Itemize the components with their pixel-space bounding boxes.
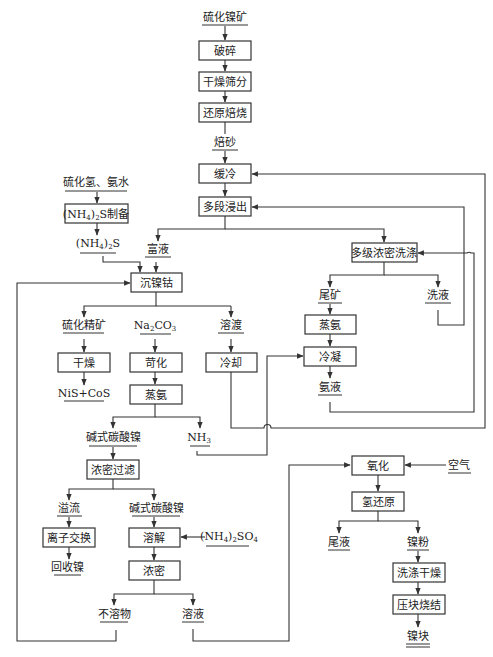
label-ammonium-sulfide: (NH4)2S [76, 237, 120, 251]
svg-text:蒸氨: 蒸氨 [319, 319, 341, 332]
label-h2s-ammonia: 硫化氢、氨水 [63, 175, 129, 189]
svg-text:还原焙烧: 还原焙烧 [203, 106, 247, 120]
svg-text:蒸氨: 蒸氨 [145, 389, 167, 402]
svg-text:多段浸出: 多段浸出 [203, 200, 247, 214]
arrow-to-sulfide-concentrate [84, 292, 156, 317]
arrow-to-rich-liquor [158, 216, 225, 241]
box-nickel-cobalt-precipitation: 沉镍钴 [131, 273, 182, 292]
arrow-to-washing [225, 229, 384, 242]
arrow-to-basic-carbonate [113, 404, 155, 428]
label-rich-liquor: 富液 [147, 242, 169, 256]
arrow-to-wash-liquor [384, 275, 438, 287]
box-ammonium-sulfide-prep: (NH4)2S制备 [63, 204, 129, 223]
label-solution: 溶液 [182, 607, 204, 621]
arrow-to-tailings [330, 262, 384, 287]
label-insoluble: 不溶物 [98, 607, 131, 621]
svg-text:冷凝: 冷凝 [319, 350, 341, 364]
label-wash-liquor: 洗液 [427, 288, 449, 302]
label-nickel-sulfide-ore: 硫化镍矿 [203, 10, 247, 24]
label-nickel-block: 镍块 [407, 629, 429, 643]
box-multi-stage-leach: 多段浸出 [199, 197, 251, 216]
label-sodium-carbonate: Na2CO3 [134, 319, 177, 333]
svg-text:破碎: 破碎 [214, 44, 236, 58]
box-thicken: 浓密 [129, 561, 180, 580]
arrow-to-insoluble [114, 580, 154, 605]
svg-text:多级浓密洗涤: 多级浓密洗涤 [351, 246, 417, 260]
box-causticize: 苛化 [130, 353, 182, 372]
svg-text:干燥: 干燥 [73, 357, 95, 370]
label-ammonia-liquor: 氨液 [319, 380, 341, 394]
svg-text:洗涤干燥: 洗涤干燥 [397, 566, 441, 580]
arrow-ammonium-sulfide-to-precip [103, 256, 140, 272]
recycle-wash-liquor-to-leach [252, 207, 464, 325]
svg-text:冷却: 冷却 [220, 357, 242, 370]
nickel-process-flowchart: 硫化镍矿 破碎 干燥筛分 还原焙烧 焙砂 缓冷 多段浸出 硫化氢、氨水 (NH4… [0, 0, 493, 657]
label-tailings: 尾矿 [319, 289, 341, 302]
label-sulfide-concentrate: 硫化精矿 [62, 318, 106, 332]
label-air: 空气 [448, 458, 470, 472]
arrow-to-tail-liquor [339, 511, 378, 533]
arrow-to-overflow [69, 479, 113, 500]
arrow-to-solution [154, 594, 193, 605]
box-ammonia-distillation: 蒸氨 [130, 385, 182, 404]
svg-text:沉镍钴: 沉镍钴 [140, 276, 173, 290]
arrow-solution-to-oxidation [193, 465, 350, 641]
box-reduction-roasting: 还原焙烧 [199, 103, 251, 122]
box-dry: 干燥 [58, 353, 110, 372]
svg-text:缓冷: 缓冷 [214, 168, 236, 181]
box-crush: 破碎 [199, 41, 251, 60]
label-calcine: 焙砂 [214, 135, 236, 149]
svg-text:氢还原: 氢还原 [362, 495, 395, 509]
box-thicken-filter: 浓密过滤 [87, 460, 139, 479]
label-ammonium-sulfate: (NH4)2SO4 [200, 530, 258, 544]
label-residue: 溶渡 [220, 318, 242, 332]
arrow-to-nickel-powder [378, 521, 418, 533]
arrow-to-basic-carbonate-2 [113, 489, 154, 500]
box-ion-exchange: 离子交换 [43, 528, 95, 547]
box-cool: 冷却 [206, 353, 257, 372]
svg-text:离子交换: 离子交换 [47, 531, 91, 545]
label-recovered-nickel: 回收镍 [51, 560, 84, 574]
svg-text:氧化: 氧化 [367, 459, 389, 473]
svg-text:压块烧结: 压块烧结 [397, 599, 441, 612]
svg-text:溶解: 溶解 [143, 531, 165, 545]
label-nis-cos: NiS+CoS [58, 387, 110, 400]
box-press-sinter: 压块烧结 [393, 595, 445, 614]
label-basic-nickel-carbonate: 碱式碳酸镍 [86, 430, 141, 444]
box-dissolve: 溶解 [129, 528, 180, 547]
svg-text:干燥筛分: 干燥筛分 [203, 75, 247, 89]
box-dry-screen: 干燥筛分 [199, 72, 251, 91]
label-overflow: 溢流 [58, 501, 80, 515]
label-basic-nickel-carbonate-2: 碱式碳酸镍 [129, 501, 184, 515]
box-ammonia-distill-tailings: 蒸氨 [305, 315, 356, 334]
box-wash-dry: 洗涤干燥 [393, 563, 445, 582]
svg-text:苛化: 苛化 [145, 356, 167, 370]
box-slow-cool: 缓冷 [199, 164, 251, 183]
label-tail-liquor: 尾液 [328, 535, 350, 549]
box-oxidation: 氧化 [352, 456, 404, 475]
label-nickel-powder: 镍粉 [407, 535, 429, 549]
box-multi-stage-thicken-wash: 多级浓密洗涤 [351, 243, 417, 262]
arrow-to-nh3 [155, 417, 200, 428]
svg-text:浓密: 浓密 [143, 564, 165, 578]
box-condense: 冷凝 [304, 347, 356, 366]
box-hydrogen-reduction: 氢还原 [352, 492, 404, 511]
svg-text:浓密过滤: 浓密过滤 [91, 463, 135, 477]
label-nh3: NH3 [187, 431, 211, 445]
